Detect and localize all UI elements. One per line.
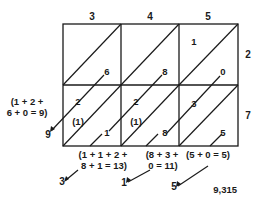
cell-tens-digit: 2 (133, 96, 138, 107)
cell-ones-digit: 0 (220, 66, 225, 77)
diagonal-result-digit: 1 (121, 177, 127, 188)
diagonal-result-digit: 9 (45, 129, 51, 140)
diagonal-sum-label: 8 + 1 = 13) (81, 160, 127, 171)
multiplier-digit: 2 (245, 49, 251, 60)
cell-tens-digit: 3 (191, 98, 196, 109)
lattice-diagram: 3 4 5 2 7 6 8 1 0 2 1 2 8 3 5 (1) (1) (1… (0, 0, 260, 205)
diagonal-result-digit: 3 (59, 176, 65, 187)
diagonal-sum-label: 6 + 0 = 9) (7, 107, 48, 118)
cell-tens-digit: 2 (75, 96, 80, 107)
multiplier-digit: 7 (245, 110, 251, 121)
diagonal-sum-label: (8 + 3 + (146, 149, 179, 160)
cell-ones-digit: 1 (104, 127, 110, 138)
diagonal-sum-label: (1 + 1 + 2 + (79, 149, 128, 160)
product-result: 9,315 (213, 184, 237, 195)
diagonal-result-digit: 5 (171, 181, 177, 192)
cell-tens-digit: 1 (191, 36, 197, 47)
cell-ones-digit: 6 (104, 66, 109, 77)
diagonal-sum-label: (5 + 0 = 5) (186, 149, 230, 160)
diagonal-sum-label: 0 = 11) (148, 160, 177, 171)
cell-ones-digit: 5 (220, 127, 226, 138)
carry-mark: (1) (130, 116, 142, 127)
multiplicand-digit: 5 (205, 11, 211, 22)
cell-ones-digit: 8 (162, 66, 167, 77)
multiplicand-digit: 4 (147, 11, 153, 22)
diagonal-sum-label: (1 + 2 + (11, 96, 44, 107)
cell-ones-digit: 8 (162, 127, 167, 138)
multiplicand-digit: 3 (89, 11, 95, 22)
carry-mark: (1) (72, 116, 84, 127)
